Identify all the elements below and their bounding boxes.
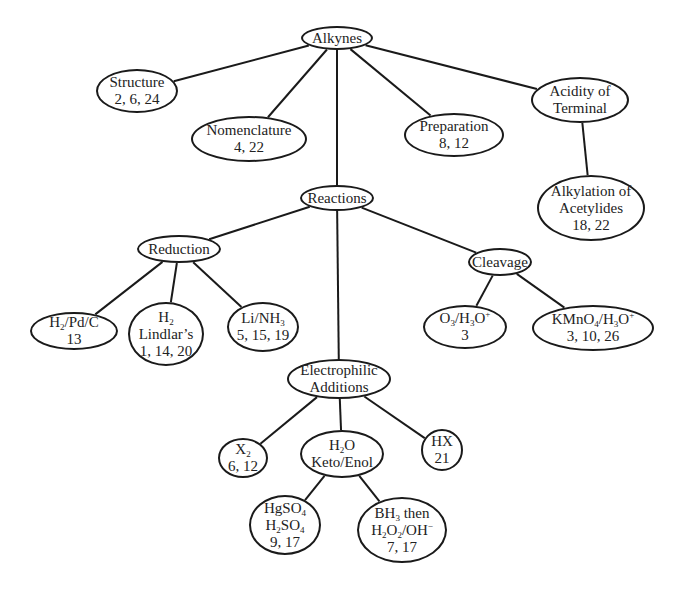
node-label-line: HgSO4 bbox=[264, 500, 306, 517]
node-preparation[interactable]: Preparation8, 12 bbox=[404, 113, 504, 157]
edge-h2o-keto-enol-to-hgso4 bbox=[305, 476, 324, 500]
edge-h2o-keto-enol-to-bh3 bbox=[359, 476, 379, 502]
node-label-line: HX bbox=[431, 433, 453, 450]
node-label-line: Li/NH3 bbox=[241, 310, 285, 327]
node-bh3[interactable]: BH3 thenH2O2/OH−7, 17 bbox=[357, 497, 447, 563]
edge-cleavage-to-o3-h3o bbox=[476, 276, 492, 306]
node-label-line: Reduction bbox=[148, 241, 210, 258]
node-label-line: H2SO4 bbox=[265, 517, 304, 534]
node-h2-lindlar[interactable]: H2Lindlar’s1, 14, 20 bbox=[128, 302, 204, 366]
node-label-line: H2O bbox=[329, 437, 355, 454]
node-label-line: BH3 then bbox=[375, 505, 430, 522]
node-label-line: Preparation bbox=[419, 118, 488, 135]
node-label-line: 9, 17 bbox=[270, 534, 300, 551]
concept-map: AlkynesStructure2, 6, 24Nomenclature4, 2… bbox=[0, 0, 680, 594]
node-label-line: Cleavage bbox=[472, 254, 528, 271]
node-label-line: X2 bbox=[235, 441, 250, 458]
node-cleavage[interactable]: Cleavage bbox=[468, 248, 532, 276]
node-label-line: 21 bbox=[435, 450, 450, 467]
node-hgso4[interactable]: HgSO4H2SO49, 17 bbox=[249, 495, 321, 555]
node-label-line: 1, 14, 20 bbox=[140, 343, 193, 360]
node-label-line: 6, 12 bbox=[228, 458, 258, 475]
node-electrophilic[interactable]: ElectrophilicAdditions bbox=[287, 359, 391, 399]
node-label-line: 3, 10, 26 bbox=[567, 328, 620, 345]
node-label-line: KMnO4/H3O+ bbox=[552, 311, 634, 328]
node-label-line: 5, 15, 19 bbox=[237, 327, 290, 344]
node-x2[interactable]: X26, 12 bbox=[218, 438, 268, 478]
node-label-line: 18, 22 bbox=[572, 217, 610, 234]
node-label-line: 3 bbox=[461, 327, 469, 344]
node-label-line: Electrophilic bbox=[300, 362, 377, 379]
edge-reactions-to-cleavage bbox=[362, 208, 477, 253]
edge-electrophilic-to-h2o-keto-enol bbox=[340, 399, 341, 430]
node-hx[interactable]: HX21 bbox=[421, 429, 463, 471]
node-label-line: H2 bbox=[158, 309, 173, 326]
node-structure[interactable]: Structure2, 6, 24 bbox=[96, 69, 178, 113]
node-label-line: Alkynes bbox=[312, 30, 362, 47]
node-nomenclature[interactable]: Nomenclature4, 22 bbox=[191, 116, 307, 162]
node-label-line: H2O2/OH− bbox=[371, 522, 433, 539]
node-reduction[interactable]: Reduction bbox=[137, 235, 221, 263]
node-kmno4-h3o[interactable]: KMnO4/H3O+3, 10, 26 bbox=[532, 305, 654, 351]
node-label-line: Additions bbox=[309, 379, 368, 396]
node-acidity[interactable]: Acidity ofTerminal bbox=[531, 77, 629, 123]
node-label-line: O3/H3O+ bbox=[440, 310, 491, 327]
edge-reactions-to-reduction bbox=[209, 207, 310, 239]
edge-alkynes-to-nomenclature bbox=[268, 50, 327, 118]
node-label-line: Nomenclature bbox=[207, 122, 292, 139]
node-label-line: Acetylides bbox=[559, 200, 623, 217]
node-label-line: Reactions bbox=[307, 190, 366, 207]
node-li-nh3[interactable]: Li/NH35, 15, 19 bbox=[227, 302, 299, 352]
node-label-line: 4, 22 bbox=[234, 139, 264, 156]
node-label-line: 13 bbox=[67, 331, 82, 348]
edge-electrophilic-to-hx bbox=[364, 396, 424, 438]
node-reactions[interactable]: Reactions bbox=[300, 185, 374, 211]
edge-cleavage-to-kmno4-h3o bbox=[517, 274, 565, 308]
node-label-line: Terminal bbox=[553, 100, 607, 117]
node-label-line: Keto/Enol bbox=[311, 454, 373, 471]
node-label-line: 2, 6, 24 bbox=[115, 91, 160, 108]
node-h2-pd-c[interactable]: H2/Pd/C13 bbox=[30, 312, 118, 350]
node-label-line: H2/Pd/C bbox=[49, 314, 99, 331]
node-o3-h3o[interactable]: O3/H3O+3 bbox=[423, 305, 507, 349]
node-label-line: 7, 17 bbox=[387, 539, 417, 556]
node-label-line: Alkylation of bbox=[551, 183, 631, 200]
edge-reduction-to-li-nh3 bbox=[193, 262, 241, 307]
edge-alkynes-to-structure bbox=[174, 45, 309, 81]
node-label-line: 8, 12 bbox=[439, 135, 469, 152]
node-label-line: Acidity of bbox=[549, 83, 610, 100]
node-h2o-keto-enol[interactable]: H2OKeto/Enol bbox=[300, 430, 384, 478]
edge-acidity-to-alkylation bbox=[582, 123, 587, 175]
edge-reduction-to-h2-lindlar bbox=[171, 263, 177, 302]
node-alkynes[interactable]: Alkynes bbox=[301, 26, 373, 50]
edge-reactions-to-electrophilic bbox=[337, 211, 339, 359]
edge-electrophilic-to-x2 bbox=[260, 397, 317, 444]
node-label-line: Structure bbox=[110, 74, 165, 91]
node-alkylation[interactable]: Alkylation ofAcetylides18, 22 bbox=[537, 175, 645, 241]
node-label-line: Lindlar’s bbox=[139, 326, 194, 343]
